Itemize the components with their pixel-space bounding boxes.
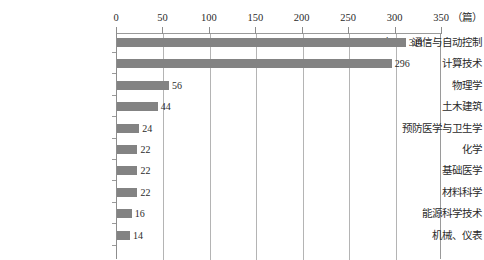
bar (117, 145, 137, 154)
category-label: 基础医学 (370, 165, 484, 176)
bar-value-label: 56 (172, 81, 182, 91)
bar (117, 166, 137, 175)
x-axis-unit-label: （篇） (452, 12, 482, 24)
x-tick-label-250: 250 (340, 12, 356, 24)
bar (117, 209, 132, 218)
x-tick-label-150: 150 (247, 12, 263, 24)
x-tickmark-150 (255, 27, 256, 34)
bar-value-label: 311 (409, 38, 424, 48)
category-label: 土木建筑 (370, 101, 484, 112)
x-tickmark-100 (209, 27, 210, 34)
bar (117, 188, 137, 197)
x-tick-label-200: 200 (294, 12, 310, 24)
bar (117, 231, 130, 240)
bar (117, 59, 392, 68)
bar-value-label: 14 (133, 231, 143, 241)
bar (117, 38, 406, 47)
bar (117, 124, 139, 133)
bar-value-label: 22 (140, 166, 150, 176)
x-tickmark-200 (302, 27, 303, 34)
x-tickmark-300 (395, 27, 396, 34)
category-label: 化学 (370, 144, 484, 155)
x-tick-label-50: 50 (157, 12, 168, 24)
category-label: 机械、仪表 (370, 230, 484, 241)
x-tick-label-0: 0 (113, 12, 118, 24)
bar-value-label: 24 (142, 124, 152, 134)
x-tick-label-100: 100 (201, 12, 217, 24)
category-label: 材料科学 (370, 187, 484, 198)
category-label: 物理学 (370, 80, 484, 91)
bar (117, 81, 169, 90)
x-tickmark-350 (441, 27, 442, 34)
x-tickmark-50 (162, 27, 163, 34)
y-axis-line (116, 33, 117, 259)
bar-value-label: 296 (395, 59, 410, 69)
bar-value-label: 16 (135, 209, 145, 219)
bar-value-label: 44 (161, 102, 171, 112)
category-label: 预防医学与卫生学 (370, 123, 484, 134)
x-tickmark-250 (348, 27, 349, 34)
x-tick-label-350: 350 (433, 12, 449, 24)
bar (117, 102, 158, 111)
bar-value-label: 22 (140, 188, 150, 198)
x-tick-label-300: 300 (387, 12, 403, 24)
category-label: 能源科学技术 (370, 208, 484, 219)
bar-value-label: 22 (140, 145, 150, 155)
